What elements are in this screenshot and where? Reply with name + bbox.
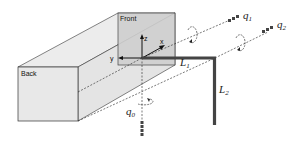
q1-rotation-arrowhead bbox=[189, 39, 192, 43]
q2-rotation-arrowhead bbox=[237, 47, 240, 51]
q0-rotation-arrowhead bbox=[147, 98, 150, 102]
q0-rotation-arrow bbox=[138, 99, 153, 105]
front-label: Front bbox=[120, 15, 136, 22]
y-label: y bbox=[110, 55, 114, 63]
q0-beads bbox=[141, 121, 144, 136]
x-label: x bbox=[160, 38, 164, 45]
robot-arm-diagram: Front Back z y x L1 L2 q1 q2 q0 bbox=[0, 0, 296, 142]
q2-beads bbox=[262, 26, 273, 33]
q2-axis-dashed-ext bbox=[215, 32, 268, 58]
q1-label: q1 bbox=[243, 9, 252, 23]
L2-label: L2 bbox=[218, 83, 229, 97]
q2-rotation-arrow bbox=[236, 35, 245, 51]
back-label: Back bbox=[21, 70, 37, 77]
q1-beads bbox=[228, 15, 239, 22]
q1-rotation-arrow bbox=[188, 27, 197, 43]
z-label: z bbox=[144, 35, 148, 42]
q2-label: q2 bbox=[277, 18, 287, 32]
q0-label: q0 bbox=[126, 105, 136, 119]
